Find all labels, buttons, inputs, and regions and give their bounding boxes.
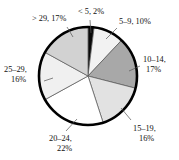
slice-label-15-19-line2: 16% (139, 134, 154, 143)
pie-chart-figure: < 5, 2% 5–9, 10% 10–14, 17% 15–19, 16% 2… (0, 0, 179, 160)
pie-chart-svg: < 5, 2% 5–9, 10% 10–14, 17% 15–19, 16% 2… (0, 0, 179, 160)
slice-label-20-24-line2: 22% (57, 144, 72, 153)
leader-line-15-19 (121, 108, 131, 120)
slice-label-5-9: 5–9, 10% (119, 17, 151, 26)
slice-label-10-14-line2: 17% (146, 65, 161, 74)
slice-label-25-29-line1: 25–29, (4, 65, 27, 74)
slice-label-20-24-line1: 20–24, (49, 134, 72, 143)
slice-label-gt-29: > 29, 17% (32, 14, 66, 23)
slice-label-lt-5: < 5, 2% (78, 7, 104, 16)
slice-label-10-14-line1: 10–14, (143, 55, 166, 64)
slice-label-15-19-line1: 15–19, (133, 124, 156, 133)
slice-label-25-29-line2: 16% (11, 75, 26, 84)
